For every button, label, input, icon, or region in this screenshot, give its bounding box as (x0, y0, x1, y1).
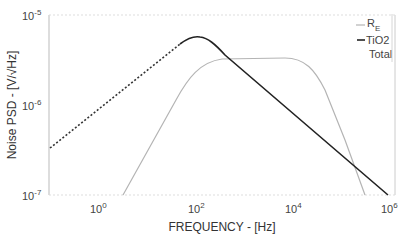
y-axis-label: Noise PSD - [V/√Hz] (5, 51, 19, 160)
series-tio2-dotted-line (50, 44, 180, 148)
series-re-line (123, 58, 365, 195)
x-tick-1e2: 102 (188, 201, 205, 215)
x-axis-ticks: 100 102 104 106 (90, 201, 398, 215)
legend-total-label: Total (369, 48, 392, 60)
x-tick-1e0: 100 (90, 201, 107, 215)
y-tick-1e-5: 10-5 (22, 8, 42, 22)
psd-chart: 10-5 10-6 10-7 100 102 104 106 FREQUENCY… (0, 0, 410, 240)
y-tick-1e-6: 10-6 (22, 98, 42, 112)
legend-tio2-label: TiO2 (366, 34, 389, 46)
plot-frame (49, 15, 395, 195)
x-tick-1e4: 104 (285, 201, 302, 215)
x-tick-1e6: 106 (381, 201, 398, 215)
legend: RE TiO2 Total (356, 14, 392, 62)
y-tick-1e-7: 10-7 (22, 188, 42, 202)
legend-re-label: RE (367, 17, 380, 33)
x-axis-label: FREQUENCY - [Hz] (168, 220, 275, 234)
y-axis-ticks: 10-5 10-6 10-7 (22, 8, 42, 202)
